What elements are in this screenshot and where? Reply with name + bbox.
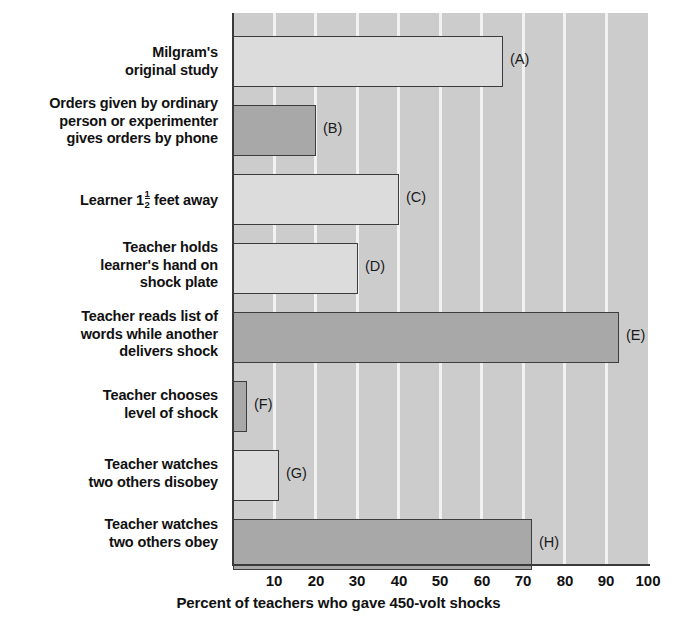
bar-key-g: (G)	[286, 465, 307, 481]
x-tick-70: 70	[515, 572, 532, 589]
category-label-column: Milgram's original study Orders given by…	[0, 0, 226, 619]
bar-e-teacher-reads-list-of-words[interactable]	[233, 312, 619, 363]
x-tick-60: 60	[474, 572, 491, 589]
learner-label-prefix: Learner 1	[80, 192, 144, 208]
bar-key-h: (H)	[539, 534, 559, 550]
category-label-teacher-chooses-level-of-shock: Teacher chooses level of shock	[103, 387, 218, 422]
plot-area: (A) (B) (C) (D) (E) (F) (G) (H)	[233, 13, 648, 565]
x-tick-40: 40	[391, 572, 408, 589]
y-axis-line	[232, 13, 234, 566]
bar-a-milgram-original-study[interactable]	[233, 36, 503, 87]
bar-key-a: (A)	[510, 51, 529, 67]
x-tick-90: 90	[598, 572, 615, 589]
bar-c-learner-one-and-a-half-feet-away[interactable]	[233, 174, 399, 225]
bar-key-c: (C)	[406, 189, 426, 205]
category-label-learner-one-and-a-half-feet-away: Learner 112 feet away	[80, 189, 218, 209]
bar-d-teacher-holds-learners-hand[interactable]	[233, 243, 358, 294]
bar-f-teacher-chooses-level-of-shock[interactable]	[233, 381, 247, 432]
fraction-denominator: 2	[145, 198, 150, 209]
category-label-milgram-original-study: Milgram's original study	[125, 44, 218, 79]
x-tick-10: 10	[266, 572, 283, 589]
gridline-70	[522, 13, 525, 565]
bar-g-teacher-watches-two-others-disobey[interactable]	[233, 450, 279, 501]
gridline-40	[397, 13, 400, 565]
gridline-90	[605, 13, 608, 565]
bar-key-d: (D)	[365, 258, 385, 274]
fraction-one-half: 12	[145, 189, 150, 209]
fraction-numerator: 1	[145, 189, 150, 198]
x-tick-100: 100	[635, 572, 660, 589]
category-label-teacher-watches-two-others-disobey: Teacher watches two others disobey	[89, 456, 218, 491]
bar-b-orders-given-by-ordinary-person[interactable]	[233, 105, 316, 156]
category-label-teacher-holds-learners-hand: Teacher holds learner's hand on shock pl…	[100, 239, 218, 292]
x-axis-title: Percent of teachers who gave 450-volt sh…	[0, 594, 677, 611]
x-tick-80: 80	[557, 572, 574, 589]
x-tick-20: 20	[308, 572, 325, 589]
bar-key-b: (B)	[323, 120, 342, 136]
bar-h-teacher-watches-two-others-obey[interactable]	[233, 519, 532, 570]
gridline-60	[480, 13, 483, 565]
x-axis-line	[233, 564, 650, 566]
bar-chart: Milgram's original study Orders given by…	[0, 0, 677, 619]
x-tick-50: 50	[432, 572, 449, 589]
bar-key-e: (E)	[626, 327, 645, 343]
x-tick-30: 30	[349, 572, 366, 589]
category-label-teacher-reads-list-of-words: Teacher reads list of words while anothe…	[81, 308, 218, 361]
gridline-80	[563, 13, 566, 565]
gridline-50	[439, 13, 442, 565]
learner-label-suffix: feet away	[150, 192, 218, 208]
bar-key-f: (F)	[254, 396, 273, 412]
category-label-teacher-watches-two-others-obey: Teacher watches two others obey	[104, 516, 218, 551]
category-label-orders-given-by-ordinary-person: Orders given by ordinary person or exper…	[49, 95, 218, 148]
